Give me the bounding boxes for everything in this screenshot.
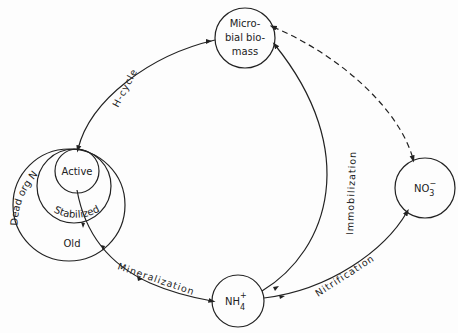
ammonium-base: NH [225,296,240,307]
microbial-biomass-line-3: mass [232,46,258,57]
microbial-biomass-line-1: Micro- [230,18,261,29]
microbial-biomass-label: Micro- bial bio- mass [225,18,266,57]
mineralization-label: Mineralization [116,260,196,297]
diagram-canvas: Micro- bial bio- mass NO3− NH4+ Active O… [0,0,458,333]
immobilization-text: Immobilization [344,151,358,235]
old-pool-label: Old [64,238,81,249]
nitrate-assimilation-dashed-arrow [273,27,413,159]
immobilization-label: Immobilization [344,151,358,235]
ammonium-superscript: + [240,291,247,300]
h-cycle-text: H-cycle [110,67,139,109]
mineralization-text: Mineralization [116,260,196,297]
nitrate-subscript: 3 [429,189,434,198]
nitrate-label: NO3− [414,179,436,198]
h-cycle-label: H-cycle [110,67,139,109]
microbial-biomass-line-2: bial bio- [225,32,266,43]
nitrate-superscript: − [429,179,436,188]
ammonium-label: NH4+ [225,291,247,312]
ammonium-subscript: 4 [240,303,245,312]
nitrification-text: Nitrification [313,252,376,298]
nitrification-label: Nitrification [313,252,376,298]
nitrate-base: NO [414,183,429,194]
nitrogen-cycle-diagram: Micro- bial bio- mass NO3− NH4+ Active O… [0,0,458,333]
immobilization-arrow [262,45,327,291]
active-pool-label: Active [62,166,93,177]
h-cycle-arrow [78,40,215,149]
